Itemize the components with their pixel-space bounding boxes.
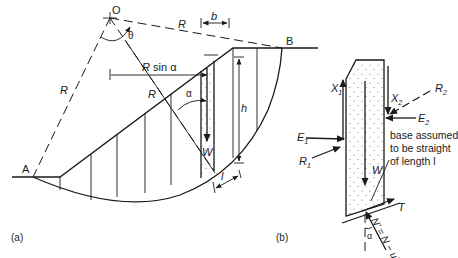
label-R-left: R bbox=[60, 84, 68, 96]
label-R-sin-alpha: R sin α bbox=[142, 61, 177, 73]
dimension-l bbox=[213, 170, 241, 193]
label-alpha: α bbox=[186, 88, 192, 99]
panel-b-label: (b) bbox=[276, 232, 288, 243]
panel-a: O R R R θ b R sin α α W bbox=[11, 4, 318, 243]
label-alpha-b: α bbox=[367, 231, 372, 241]
label-W: W bbox=[202, 146, 214, 158]
label-R-slice: R bbox=[148, 88, 156, 100]
label-B: B bbox=[286, 35, 293, 47]
note-line-2: to be straight bbox=[390, 142, 451, 154]
label-R1: R1 bbox=[299, 155, 311, 169]
alpha-arc-b bbox=[365, 227, 372, 229]
force-E1-arrow bbox=[306, 138, 344, 139]
label-E1: E1 bbox=[297, 131, 308, 145]
theta-arc bbox=[101, 27, 130, 41]
note-line-1: base assumed bbox=[390, 129, 458, 141]
label-h: h bbox=[241, 102, 247, 114]
note-line-3: of length l bbox=[390, 155, 436, 167]
label-theta: θ bbox=[128, 30, 134, 41]
label-R2: R2 bbox=[435, 82, 447, 96]
label-A: A bbox=[22, 163, 30, 175]
label-X2: X2 bbox=[390, 92, 402, 106]
label-X1: X1 bbox=[330, 82, 342, 96]
radius-to-B bbox=[110, 18, 282, 48]
label-W-b: W bbox=[372, 164, 384, 176]
label-T: T bbox=[398, 201, 406, 213]
force-R1-arrow bbox=[312, 147, 340, 158]
panel-a-label: (a) bbox=[11, 232, 23, 243]
label-O: O bbox=[112, 4, 121, 16]
label-E2: E2 bbox=[418, 112, 429, 126]
radius-to-A bbox=[33, 18, 110, 177]
label-b: b bbox=[211, 10, 217, 22]
label-R-top: R bbox=[178, 18, 186, 30]
label-N: N' = N − ul bbox=[369, 216, 401, 258]
label-l: l bbox=[221, 170, 224, 182]
panel-b: X1 E1 R1 W X2 E2 R2 base assumed to be s… bbox=[276, 60, 458, 258]
slope-stability-diagram: O R R R θ b R sin α α W bbox=[0, 0, 458, 258]
